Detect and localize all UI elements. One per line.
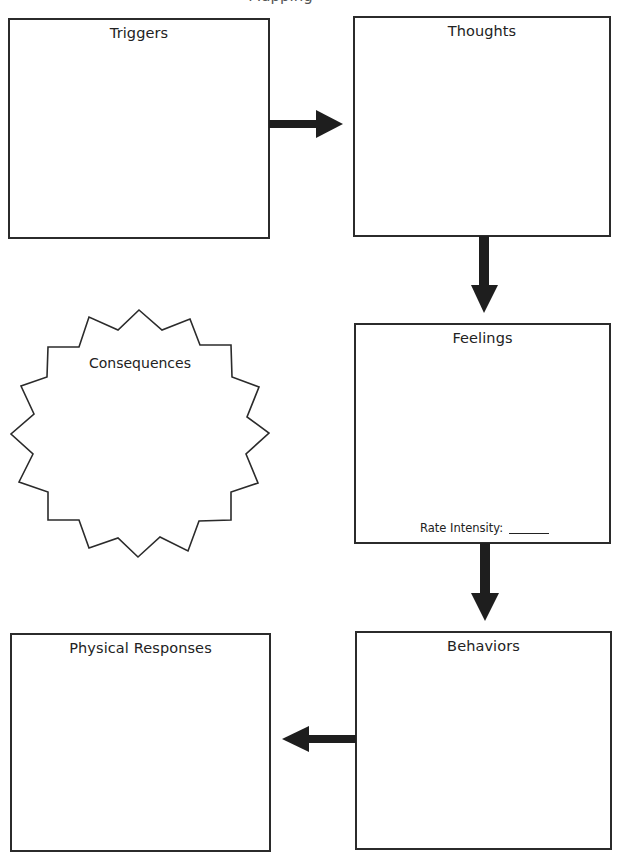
arrow-right-icon (269, 110, 343, 138)
arrow-left-icon (282, 726, 356, 752)
arrow-down-icon (471, 236, 498, 313)
diagram-overlay (0, 0, 621, 858)
consequences-title: Consequences (60, 355, 220, 371)
arrow-down-icon (471, 543, 499, 621)
consequences-starburst[interactable] (11, 310, 269, 557)
